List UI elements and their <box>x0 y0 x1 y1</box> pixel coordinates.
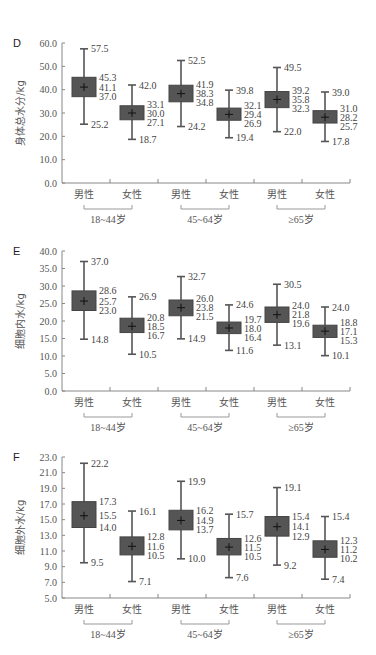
x-category-label: 女性 <box>219 603 239 615</box>
group-label: ≥65岁 <box>288 213 314 225</box>
y-tick-label: 25.0 <box>40 298 58 309</box>
q1-value: 23.0 <box>99 305 117 316</box>
box-5: 49.522.039.235.832.3 <box>265 62 310 137</box>
group-bracket <box>84 413 132 417</box>
x-category-label: 女性 <box>122 396 142 408</box>
x-category-label: 男性 <box>74 396 94 408</box>
panel-e: E细胞内水/kg0.05.010.015.020.025.030.035.040… <box>13 245 358 433</box>
panel-letter: E <box>13 245 20 257</box>
group-label: ≥65岁 <box>288 421 314 433</box>
group-bracket <box>84 205 132 209</box>
max-value: 24.0 <box>332 302 350 313</box>
y-tick-label: 30.0 <box>40 281 58 292</box>
q1-value: 16.7 <box>147 330 165 341</box>
y-tick-label: 20.0 <box>40 131 58 142</box>
min-value: 17.8 <box>332 136 350 147</box>
q1-value: 10.5 <box>147 550 165 561</box>
min-value: 14.9 <box>188 333 206 344</box>
q1-value: 25.7 <box>340 121 358 132</box>
y-tick-label: 15.0 <box>40 333 58 344</box>
y-tick-label: 40.0 <box>40 84 58 95</box>
y-tick-label: 35.0 <box>40 263 58 274</box>
q1-value: 34.8 <box>196 97 214 108</box>
q1-value: 16.4 <box>244 332 262 343</box>
max-value: 19.9 <box>188 476 206 487</box>
q3-value: 17.3 <box>99 496 117 507</box>
q1-value: 19.6 <box>292 318 310 329</box>
y-axis-label: 身体总水分/kg <box>14 80 26 146</box>
x-category-label: 女性 <box>315 188 335 200</box>
x-category-label: 男性 <box>267 396 287 408</box>
y-tick-label: 5.0 <box>45 368 58 379</box>
x-category-label: 女性 <box>315 396 335 408</box>
max-value: 52.5 <box>188 55 206 66</box>
panel-d: D身体总水分/kg0.010.020.030.040.050.060.057.5… <box>13 37 358 225</box>
y-tick-label: 21.0 <box>40 467 58 478</box>
y-tick-label: 9.0 <box>45 561 58 572</box>
box-3: 52.524.241.938.334.8 <box>169 55 214 132</box>
y-tick-label: 10.0 <box>40 154 58 165</box>
max-value: 19.1 <box>284 482 302 493</box>
min-value: 7.1 <box>139 576 152 587</box>
min-value: 19.4 <box>236 132 254 143</box>
max-value: 30.5 <box>284 279 302 290</box>
panel-letter: D <box>13 37 21 49</box>
y-axis-label: 细胞内水/kg <box>14 293 26 349</box>
group-bracket <box>181 620 229 624</box>
group-bracket <box>181 205 229 209</box>
box-6: 24.010.118.817.115.3 <box>313 302 358 362</box>
max-value: 39.8 <box>236 85 254 96</box>
min-value: 18.7 <box>139 134 157 145</box>
min-value: 14.8 <box>91 334 109 345</box>
panel-letter: F <box>13 451 20 463</box>
max-value: 26.9 <box>139 291 157 302</box>
x-category-label: 女性 <box>219 396 239 408</box>
box-2: 26.910.520.818.516.7 <box>120 291 165 359</box>
max-value: 32.7 <box>188 271 206 282</box>
q1-value: 21.5 <box>196 311 214 322</box>
max-value: 37.0 <box>91 256 109 267</box>
group-bracket <box>277 413 325 417</box>
min-value: 22.0 <box>284 126 302 137</box>
group-bracket <box>277 620 325 624</box>
box-1: 22.29.517.315.514.0 <box>72 458 117 568</box>
max-value: 24.6 <box>236 299 254 310</box>
q1-value: 14.0 <box>99 522 117 533</box>
boxplot-figure: D身体总水分/kg0.010.020.030.040.050.060.057.5… <box>0 0 376 655</box>
y-tick-label: 30.0 <box>40 108 58 119</box>
y-tick-label: 11.0 <box>40 546 57 557</box>
max-value: 22.2 <box>91 458 109 469</box>
y-tick-label: 19.0 <box>40 483 58 494</box>
q1-value: 10.5 <box>244 551 262 562</box>
x-category-label: 女性 <box>219 188 239 200</box>
group-label: 18~44岁 <box>90 213 125 225</box>
q1-value: 27.1 <box>147 117 165 128</box>
min-value: 7.6 <box>236 572 249 583</box>
x-category-label: 女性 <box>122 603 142 615</box>
x-category-label: 男性 <box>267 603 287 615</box>
x-category-label: 男性 <box>74 603 94 615</box>
max-value: 42.0 <box>139 80 157 91</box>
q1-value: 12.9 <box>292 531 310 542</box>
y-tick-label: 10.0 <box>40 351 58 362</box>
q1-value: 15.3 <box>340 335 358 346</box>
max-value: 39.0 <box>332 87 350 98</box>
box-2: 16.17.112.811.610.5 <box>120 506 165 588</box>
median-value: 15.5 <box>99 510 117 521</box>
panel-f: F细胞外水/kg5.07.09.011.013.015.017.019.021.… <box>13 451 358 640</box>
box-3: 19.910.016.214.913.7 <box>169 476 214 565</box>
y-tick-label: 23.0 <box>40 452 58 463</box>
box-1: 37.014.828.625.723.0 <box>72 256 117 345</box>
group-bracket <box>84 620 132 624</box>
box-2: 42.018.733.130.027.1 <box>120 80 165 145</box>
group-label: 18~44岁 <box>90 421 125 433</box>
q1-value: 32.3 <box>292 103 310 114</box>
x-category-label: 女性 <box>122 188 142 200</box>
x-category-label: 男性 <box>171 396 191 408</box>
y-tick-label: 5.0 <box>45 593 58 604</box>
max-value: 57.5 <box>91 43 109 54</box>
y-tick-label: 20.0 <box>40 316 58 327</box>
box-5: 30.513.124.021.819.6 <box>265 279 310 351</box>
box-6: 39.017.831.028.225.7 <box>313 87 358 147</box>
max-value: 15.7 <box>236 509 254 520</box>
